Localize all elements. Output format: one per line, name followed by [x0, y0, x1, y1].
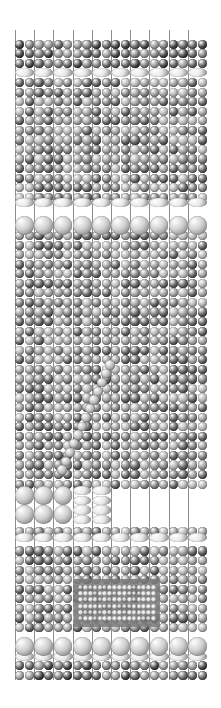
interface-ellipsoid	[73, 533, 92, 542]
atom-sphere	[159, 480, 168, 489]
atom-sphere	[130, 317, 139, 326]
atom-sphere	[44, 556, 53, 565]
atom-sphere	[178, 441, 187, 450]
atom-sphere	[92, 164, 101, 173]
inclusion-atom	[122, 591, 127, 596]
atom-sphere	[150, 556, 159, 565]
atom-sphere	[178, 336, 187, 345]
atom-sphere	[178, 403, 187, 412]
atom-sphere	[188, 59, 197, 68]
atom-sphere	[54, 288, 63, 297]
interface-ellipsoid	[149, 68, 168, 77]
atom-sphere	[111, 135, 120, 144]
atom-sphere	[198, 441, 207, 450]
atom-sphere	[150, 374, 159, 383]
atom-sphere	[25, 460, 34, 469]
interface-ellipsoid	[53, 198, 72, 207]
atom-sphere	[188, 623, 197, 632]
atom-sphere	[188, 585, 197, 594]
atom-sphere	[111, 307, 120, 316]
atom-sphere	[188, 183, 197, 192]
atom-sphere	[169, 59, 178, 68]
atom-sphere	[15, 260, 24, 269]
interface-ellipsoid	[15, 533, 34, 542]
atom-sphere	[54, 327, 63, 336]
atom-sphere	[198, 604, 207, 613]
atom-sphere	[140, 145, 149, 154]
atom-sphere	[178, 126, 187, 135]
atom-sphere	[188, 317, 197, 326]
atom-sphere	[25, 432, 34, 441]
dislocation-atom	[69, 439, 78, 448]
atom-sphere	[150, 269, 159, 278]
atom-sphere	[198, 298, 207, 307]
atom-sphere	[34, 49, 43, 58]
atom-sphere	[73, 556, 82, 565]
atom-sphere	[54, 384, 63, 393]
atom-sphere	[102, 470, 111, 479]
atom-sphere	[178, 40, 187, 49]
atom-sphere	[92, 566, 101, 575]
atom-sphere	[44, 403, 53, 412]
atom-sphere	[121, 107, 130, 116]
atom-sphere	[159, 422, 168, 431]
large-cation-sphere	[130, 637, 149, 656]
atom-sphere	[121, 78, 130, 87]
large-cation-sphere	[73, 637, 92, 656]
atom-sphere	[188, 575, 197, 584]
atom-sphere	[169, 154, 178, 163]
atom-sphere	[169, 413, 178, 422]
atom-sphere	[54, 269, 63, 278]
atom-sphere	[169, 432, 178, 441]
atom-sphere	[63, 164, 72, 173]
interface-ellipsoid	[149, 198, 168, 207]
atom-sphere	[82, 241, 91, 250]
atom-sphere	[15, 566, 24, 575]
atom-sphere	[25, 241, 34, 250]
atom-sphere	[54, 307, 63, 316]
atom-sphere	[54, 413, 63, 422]
atom-sphere	[15, 174, 24, 183]
atom-sphere	[73, 460, 82, 469]
atom-sphere	[34, 460, 43, 469]
atom-sphere	[188, 250, 197, 259]
inclusion-atom	[83, 604, 88, 609]
atom-sphere	[63, 585, 72, 594]
atom-sphere	[73, 59, 82, 68]
atom-sphere	[92, 413, 101, 422]
atom-sphere	[63, 145, 72, 154]
atom-sphere	[34, 432, 43, 441]
atom-sphere	[140, 374, 149, 383]
atom-sphere	[25, 346, 34, 355]
atom-sphere	[73, 566, 82, 575]
atom-sphere	[34, 154, 43, 163]
atom-sphere	[178, 288, 187, 297]
atom-sphere	[54, 441, 63, 450]
atom-sphere	[15, 403, 24, 412]
flattened-ellipsoid	[92, 515, 110, 524]
atom-sphere	[121, 432, 130, 441]
atom-sphere	[198, 556, 207, 565]
atom-sphere	[25, 59, 34, 68]
atom-sphere	[169, 317, 178, 326]
atom-sphere	[73, 403, 82, 412]
atom-sphere	[54, 116, 63, 125]
atom-sphere	[140, 288, 149, 297]
atom-sphere	[44, 317, 53, 326]
atom-sphere	[34, 88, 43, 97]
atom-sphere	[121, 393, 130, 402]
atom-sphere	[130, 107, 139, 116]
atom-sphere	[15, 164, 24, 173]
atom-sphere	[54, 183, 63, 192]
atom-sphere	[102, 393, 111, 402]
atom-sphere	[188, 116, 197, 125]
atom-sphere	[159, 671, 168, 680]
atom-sphere	[73, 336, 82, 345]
interface-ellipsoid	[15, 198, 34, 207]
atom-sphere	[140, 107, 149, 116]
atom-sphere	[111, 470, 120, 479]
atom-sphere	[15, 241, 24, 250]
atom-sphere	[198, 126, 207, 135]
atom-sphere	[73, 384, 82, 393]
atom-sphere	[188, 135, 197, 144]
